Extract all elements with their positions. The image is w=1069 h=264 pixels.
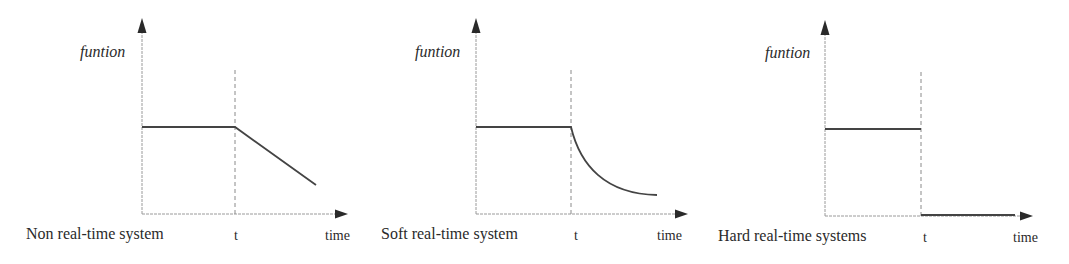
y-axis-label: funtion: [415, 43, 460, 61]
panel-caption: Hard real-time systems: [718, 227, 866, 245]
y-axis-arrow-icon: [472, 18, 481, 33]
deadline-tick-label: t: [574, 228, 578, 243]
panel-caption: Soft real-time system: [381, 225, 518, 243]
y-axis-arrow-icon: [821, 20, 830, 35]
y-axis-arrow-icon: [138, 18, 147, 33]
panel-hard-real-time: funtion Hard real-time systems t time: [718, 20, 1038, 245]
x-axis-arrow-icon: [335, 210, 348, 219]
function-curve: [476, 127, 657, 195]
deadline-tick-label: t: [234, 228, 238, 243]
x-axis-label: time: [657, 228, 682, 243]
x-axis-arrow-icon: [675, 210, 688, 219]
panel-caption: Non real-time system: [26, 225, 164, 243]
y-axis-label: funtion: [765, 44, 810, 62]
x-axis-label: time: [1013, 230, 1038, 245]
deadline-tick-label: t: [923, 230, 927, 245]
y-axis-label: funtion: [80, 43, 125, 61]
function-curve: [142, 127, 316, 185]
x-axis-label: time: [325, 228, 350, 243]
real-time-systems-diagram: funtion Non real-time system t time funt…: [0, 0, 1069, 264]
panel-non-real-time: funtion Non real-time system t time: [26, 18, 350, 243]
panel-soft-real-time: funtion Soft real-time system t time: [381, 18, 688, 243]
x-axis-arrow-icon: [1020, 212, 1033, 221]
